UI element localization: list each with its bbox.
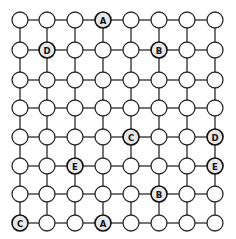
node-circle bbox=[67, 129, 83, 145]
node-label: C bbox=[17, 219, 23, 229]
node-circle bbox=[12, 42, 28, 58]
node-circle bbox=[179, 42, 195, 58]
node-circle bbox=[67, 12, 83, 28]
labeled-node-b: B bbox=[151, 42, 167, 58]
grid-node bbox=[67, 100, 83, 116]
grid-node bbox=[95, 100, 111, 116]
grid-node bbox=[95, 129, 111, 145]
grid-node bbox=[207, 100, 223, 116]
grid-node bbox=[151, 215, 167, 231]
node-circle bbox=[151, 100, 167, 116]
node-circle bbox=[151, 12, 167, 28]
grid-node bbox=[207, 42, 223, 58]
grid-node bbox=[12, 72, 28, 88]
node-circle bbox=[67, 186, 83, 202]
grid-node bbox=[151, 158, 167, 174]
labeled-node-a: A bbox=[95, 215, 111, 231]
node-circle bbox=[123, 72, 139, 88]
node-circle bbox=[179, 12, 195, 28]
grid-node bbox=[67, 215, 83, 231]
node-circle bbox=[123, 42, 139, 58]
grid-node bbox=[12, 129, 28, 145]
labeled-node-c: C bbox=[12, 215, 28, 231]
grid-node bbox=[12, 158, 28, 174]
node-circle bbox=[123, 158, 139, 174]
node-label: E bbox=[212, 162, 218, 172]
node-circle bbox=[95, 42, 111, 58]
node-circle bbox=[207, 12, 223, 28]
node-circle bbox=[12, 72, 28, 88]
node-label: D bbox=[43, 46, 50, 56]
node-circle bbox=[39, 12, 55, 28]
grid-node bbox=[151, 100, 167, 116]
node-label: A bbox=[100, 16, 107, 26]
grid-node bbox=[12, 42, 28, 58]
grid-node bbox=[67, 12, 83, 28]
node-circle bbox=[95, 72, 111, 88]
node-circle bbox=[12, 100, 28, 116]
grid-node bbox=[95, 186, 111, 202]
grid-node bbox=[207, 12, 223, 28]
node-circle bbox=[123, 186, 139, 202]
grid-node bbox=[12, 100, 28, 116]
grid-node bbox=[39, 12, 55, 28]
grid-node bbox=[39, 100, 55, 116]
node-circle bbox=[39, 158, 55, 174]
node-circle bbox=[95, 186, 111, 202]
node-circle bbox=[95, 100, 111, 116]
grid-node bbox=[67, 129, 83, 145]
grid-node bbox=[179, 186, 195, 202]
grid-node bbox=[39, 158, 55, 174]
node-circle bbox=[39, 186, 55, 202]
node-label: D bbox=[211, 133, 218, 143]
node-circle bbox=[39, 129, 55, 145]
grid-node bbox=[67, 186, 83, 202]
labeled-node-d: D bbox=[39, 42, 55, 58]
grid-node bbox=[207, 215, 223, 231]
node-circle bbox=[39, 215, 55, 231]
grid-node bbox=[95, 72, 111, 88]
grid-node bbox=[179, 158, 195, 174]
labeled-node-e: E bbox=[67, 158, 83, 174]
node-circle bbox=[207, 186, 223, 202]
node-circle bbox=[39, 72, 55, 88]
node-label: C bbox=[128, 133, 134, 143]
node-circle bbox=[95, 158, 111, 174]
node-circle bbox=[151, 72, 167, 88]
node-circle bbox=[123, 215, 139, 231]
node-circle bbox=[151, 129, 167, 145]
node-circle bbox=[12, 129, 28, 145]
node-circle bbox=[39, 100, 55, 116]
node-circle bbox=[151, 215, 167, 231]
grid-diagram: ADBCDEEBCA bbox=[0, 0, 236, 239]
grid-node bbox=[151, 72, 167, 88]
grid-node bbox=[207, 72, 223, 88]
node-circle bbox=[179, 100, 195, 116]
node-circle bbox=[67, 72, 83, 88]
grid-node bbox=[179, 72, 195, 88]
grid-node bbox=[123, 158, 139, 174]
grid-node bbox=[123, 100, 139, 116]
grid-node bbox=[179, 12, 195, 28]
node-circle bbox=[12, 158, 28, 174]
grid-node bbox=[67, 42, 83, 58]
grid-node bbox=[123, 215, 139, 231]
labeled-node-d: D bbox=[207, 129, 223, 145]
grid-node bbox=[39, 215, 55, 231]
node-circle bbox=[179, 215, 195, 231]
node-label: B bbox=[156, 190, 162, 200]
labeled-node-e: E bbox=[207, 158, 223, 174]
grid-nodes: ADBCDEEBCA bbox=[12, 12, 223, 231]
node-circle bbox=[207, 72, 223, 88]
node-label: B bbox=[156, 46, 162, 56]
labeled-node-b: B bbox=[151, 186, 167, 202]
node-circle bbox=[207, 100, 223, 116]
grid-node bbox=[95, 42, 111, 58]
grid-node bbox=[123, 72, 139, 88]
grid-node bbox=[179, 129, 195, 145]
grid-node bbox=[67, 72, 83, 88]
grid-node bbox=[151, 129, 167, 145]
node-circle bbox=[67, 100, 83, 116]
node-circle bbox=[179, 129, 195, 145]
node-circle bbox=[67, 42, 83, 58]
